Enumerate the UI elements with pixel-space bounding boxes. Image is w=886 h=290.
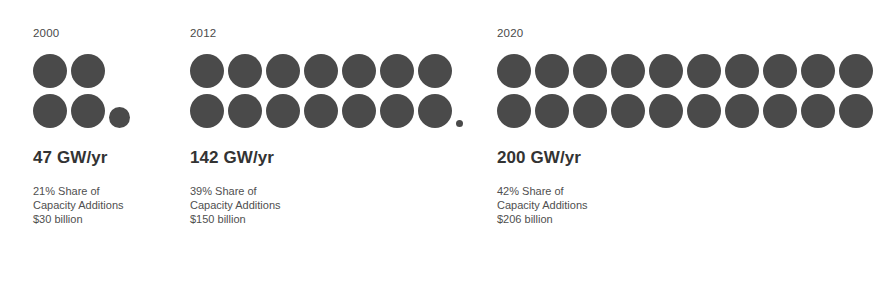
additions-line: Capacity Additions (190, 198, 480, 212)
dot-row (33, 94, 183, 128)
dot-row (190, 54, 480, 88)
dot-row (497, 54, 862, 88)
share-line: 42% Share of (497, 184, 862, 198)
dot-unit (33, 94, 67, 128)
year-group-2012: 2012 142 GW/yr (190, 0, 480, 226)
dot-unit (266, 94, 300, 128)
dot-unit (266, 54, 300, 88)
dot-unit (380, 94, 414, 128)
dot-unit (342, 94, 376, 128)
dot-unit (418, 94, 452, 128)
capacity-additions-infographic: 2000 47 GW/yr 21% Share of Capacity Addi… (0, 0, 886, 290)
headline-2000: 47 GW/yr (33, 128, 183, 168)
pictogram-dots-2012 (190, 54, 480, 128)
dot-unit (304, 54, 338, 88)
investment-line: $30 billion (33, 212, 183, 226)
dot-unit (228, 94, 262, 128)
dot-partial-unit (456, 120, 463, 127)
additions-line: Capacity Additions (33, 198, 183, 212)
share-line: 21% Share of (33, 184, 183, 198)
dot-unit (535, 94, 569, 128)
dot-unit (725, 94, 759, 128)
headline-2020: 200 GW/yr (497, 128, 862, 168)
dot-unit (304, 94, 338, 128)
dot-unit (649, 54, 683, 88)
dot-row (33, 54, 183, 88)
dot-unit (763, 94, 797, 128)
subtext-2000: 21% Share of Capacity Additions $30 bill… (33, 168, 183, 226)
year-label-2020: 2020 (497, 0, 862, 40)
dot-unit (71, 54, 105, 88)
headline-2012: 142 GW/yr (190, 128, 480, 168)
year-group-2020: 2020 (497, 0, 862, 226)
dot-unit (611, 54, 645, 88)
dot-partial-unit (109, 107, 130, 128)
dot-row (497, 94, 862, 128)
dot-unit (573, 54, 607, 88)
dot-unit (801, 54, 835, 88)
dot-unit (497, 94, 531, 128)
dot-unit (228, 54, 262, 88)
dot-unit (71, 94, 105, 128)
dot-unit (190, 54, 224, 88)
pictogram-dots-2000 (33, 54, 183, 128)
dot-unit (687, 54, 721, 88)
additions-line: Capacity Additions (497, 198, 862, 212)
dot-row (190, 94, 480, 128)
investment-line: $206 billion (497, 212, 862, 226)
dot-unit (611, 94, 645, 128)
dot-unit (687, 94, 721, 128)
dot-unit (418, 54, 452, 88)
dot-unit (33, 54, 67, 88)
share-line: 39% Share of (190, 184, 480, 198)
dot-unit (497, 54, 531, 88)
year-group-2000: 2000 47 GW/yr 21% Share of Capacity Addi… (33, 0, 183, 226)
investment-line: $150 billion (190, 212, 480, 226)
dot-unit (725, 54, 759, 88)
dot-unit (763, 54, 797, 88)
dot-unit (573, 94, 607, 128)
dot-unit (342, 54, 376, 88)
dot-unit (801, 94, 835, 128)
dot-unit (839, 94, 873, 128)
year-label-2000: 2000 (33, 0, 183, 40)
pictogram-dots-2020 (497, 54, 862, 128)
subtext-2020: 42% Share of Capacity Additions $206 bil… (497, 168, 862, 226)
dot-unit (190, 94, 224, 128)
year-label-2012: 2012 (190, 0, 480, 40)
subtext-2012: 39% Share of Capacity Additions $150 bil… (190, 168, 480, 226)
dot-unit (535, 54, 569, 88)
dot-unit (839, 54, 873, 88)
dot-unit (380, 54, 414, 88)
dot-unit (649, 94, 683, 128)
